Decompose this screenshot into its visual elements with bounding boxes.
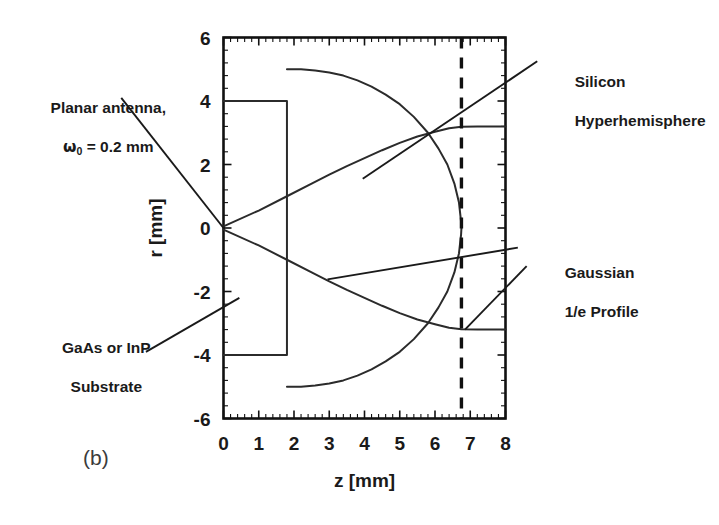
y-tick-label: 6: [200, 28, 211, 49]
y-tick-label: -2: [194, 282, 211, 303]
y-tick-label: -6: [194, 409, 211, 430]
omega-symbol: ω: [63, 138, 76, 156]
x-tick-label: 2: [289, 433, 300, 454]
x-tick-label: 6: [430, 433, 441, 454]
panel-label: (b): [83, 446, 109, 470]
annotation-silicon-line1: Silicon: [575, 73, 626, 90]
y-tick-label: 0: [200, 218, 211, 239]
y-axis-title: r [mm]: [145, 198, 166, 257]
y-tick-label: 2: [200, 155, 211, 176]
x-tick-label: 7: [465, 433, 476, 454]
annotation-gaussian-line1: Gaussian: [565, 264, 635, 281]
annotation-silicon-hyperhemisphere: Silicon Hyperhemisphere: [566, 52, 716, 131]
x-tick-label: 3: [324, 433, 335, 454]
annotation-gaussian-profile: Gaussian 1/e Profile: [556, 243, 706, 322]
annotation-substrate-line1: GaAs or InP: [62, 339, 151, 356]
annotation-silicon-line2: Hyperhemisphere: [575, 112, 706, 129]
annotation-planar-antenna-line1: Planar antenna,: [51, 99, 166, 116]
y-tick-label: -4: [194, 345, 211, 366]
x-tick-label: 1: [253, 433, 264, 454]
annotation-substrate: GaAs or InP Substrate: [16, 318, 188, 397]
annotation-planar-antenna: Planar antenna, ω0 = 0.2 mm: [20, 78, 188, 159]
x-tick-label: 0: [218, 433, 229, 454]
x-tick-label: 8: [500, 433, 511, 454]
annotation-gaussian-line2: 1/e Profile: [565, 303, 639, 320]
x-axis-title: z [mm]: [334, 470, 395, 491]
x-tick-label: 4: [359, 433, 370, 454]
annotation-substrate-line2: Substrate: [71, 378, 143, 395]
y-tick-label: 4: [200, 91, 211, 112]
x-tick-label: 5: [394, 433, 405, 454]
annotation-planar-antenna-value: = 0.2 mm: [82, 138, 153, 155]
